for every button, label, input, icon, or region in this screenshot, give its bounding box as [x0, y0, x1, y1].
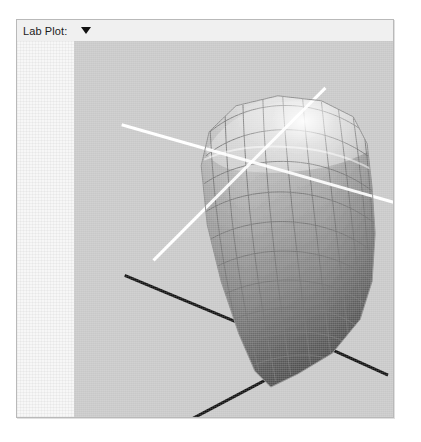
- lab-plot-label: Lab Plot:: [17, 25, 67, 37]
- plot-toolbar: Lab Plot:: [17, 20, 393, 41]
- lab-plot-window: Lab Plot:: [16, 19, 394, 418]
- surface-plot-svg[interactable]: [74, 20, 393, 417]
- left-control-panel: [17, 20, 74, 417]
- caret-down-icon: [81, 27, 91, 34]
- screenshot-root: Lab Plot:: [0, 0, 421, 442]
- plot-canvas[interactable]: [74, 20, 393, 417]
- lab-plot-dropdown-button[interactable]: [75, 23, 97, 39]
- panel-texture: [17, 20, 74, 417]
